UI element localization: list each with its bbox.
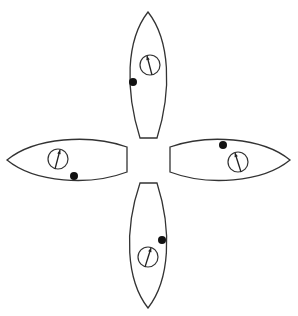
boat-top: [129, 12, 167, 138]
dot-marker: [158, 236, 166, 244]
dot-marker: [129, 78, 137, 86]
boat-right: [170, 139, 290, 180]
boat-bottom: [130, 183, 167, 308]
boat-left: [7, 139, 127, 180]
boats-compass-diagram: [0, 0, 298, 316]
dot-marker: [70, 172, 78, 180]
boat-hull: [130, 183, 167, 308]
dot-marker: [219, 141, 227, 149]
